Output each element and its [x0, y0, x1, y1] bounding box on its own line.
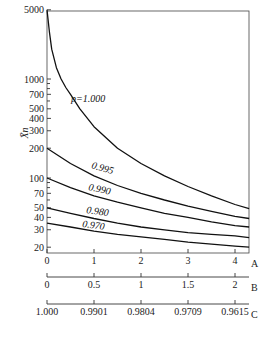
curve-label: p=1.000: [70, 93, 105, 104]
y-axis-label: X̄n: [19, 127, 30, 139]
y-tick-label: 200: [29, 143, 44, 154]
curve-0.990: [47, 178, 249, 227]
y-tick-label: 5000: [24, 4, 44, 15]
y-tick-label: 70: [34, 188, 44, 199]
y-tick-label: 40: [34, 212, 44, 223]
curve-label: 0.995: [90, 159, 115, 176]
y-tick-label: 300: [29, 125, 44, 136]
x-axis-name: A: [251, 258, 259, 269]
curve-0.995: [47, 148, 249, 218]
y-tick-label: 20: [34, 242, 44, 253]
curves: p=1.0000.9950.9900.9800.970: [47, 10, 249, 247]
x-axis-A: 01234A: [45, 249, 260, 269]
x-tick-label: 0: [45, 279, 50, 290]
x-tick-label: 0.9709: [174, 306, 202, 317]
x-tick-label: 0.9901: [80, 306, 108, 317]
x-axis-name: C: [251, 309, 258, 320]
x-tick-label: 0: [45, 255, 50, 266]
x-tick-label: 1.5: [182, 279, 195, 290]
x-axes: 01234A00.511.52B1.0000.99010.98040.97090…: [36, 249, 259, 320]
x-tick-label: 1.000: [36, 306, 59, 317]
y-tick-label: 1000: [24, 74, 44, 85]
x-tick-label: 1: [139, 279, 144, 290]
curve-p=1.000: [47, 10, 249, 209]
y-tick-label: 700: [29, 89, 44, 100]
x-tick-label: 4: [233, 255, 238, 266]
x-tick-label: 1: [92, 255, 97, 266]
plot-area: [47, 11, 249, 253]
x-axis-C: 1.0000.99010.98040.97090.9615C: [36, 300, 258, 320]
y-tick-label: 30: [34, 224, 44, 235]
x-tick-label: 0.9804: [127, 306, 155, 317]
x-tick-label: 2: [233, 279, 238, 290]
x-axis-B: 00.511.52B: [45, 273, 259, 293]
y-tick-label: 400: [29, 113, 44, 124]
x-tick-label: 0.9615: [221, 306, 249, 317]
curve-label: 0.980: [86, 204, 110, 218]
x-tick-label: 3: [186, 255, 191, 266]
chart: 500010007005004003002001007050403020 p=1…: [0, 0, 265, 337]
x-tick-label: 0.5: [88, 279, 101, 290]
x-tick-label: 2: [139, 255, 144, 266]
x-axis-name: B: [251, 282, 258, 293]
plot-frame: [47, 11, 249, 253]
y-tick-label: 100: [29, 173, 44, 184]
